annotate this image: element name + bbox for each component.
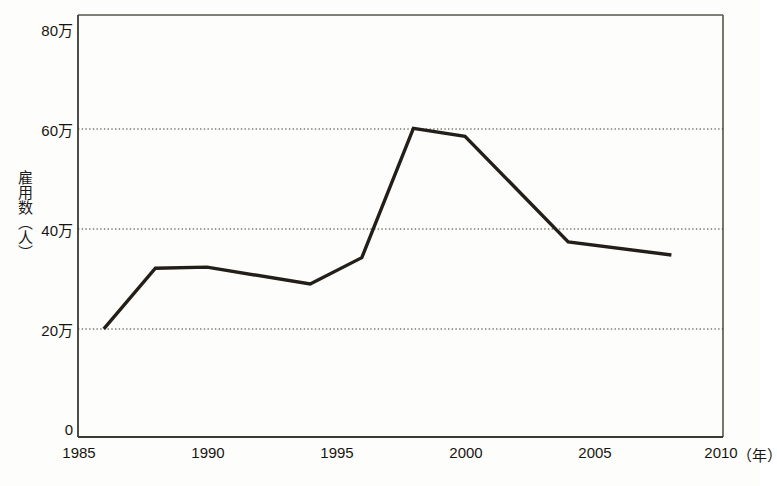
line-chart: 雇用数（人） 80万 60万 40万 20万 0 1985 1990 1995 …	[0, 0, 760, 486]
plot-area	[0, 0, 760, 486]
